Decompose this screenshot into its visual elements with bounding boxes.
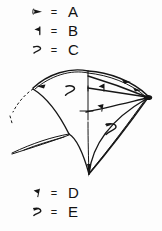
- equals-sign: =: [46, 187, 62, 199]
- legend-letter: B: [62, 22, 90, 39]
- open-hook-right-glyph-icon: [30, 44, 46, 56]
- symbol-legend-bottom: = D = E: [0, 183, 162, 221]
- symbol-legend-top: = A = B = C: [0, 2, 162, 59]
- tick-left-dashed: [10, 116, 12, 123]
- fan-surface-diagram: [0, 64, 162, 180]
- edge-inner-bottom-left: [69, 134, 89, 174]
- equals-sign: =: [46, 44, 62, 56]
- equals-sign: =: [46, 206, 62, 218]
- edge-b-chord: [88, 76, 147, 97]
- legend-row: = C: [0, 40, 162, 59]
- flag-marker-d: [97, 104, 103, 112]
- flag-on-stem-glyph-icon: [30, 187, 46, 199]
- legend-row: = D: [0, 183, 162, 202]
- legend-letter: A: [62, 3, 90, 20]
- legend-letter: E: [62, 203, 90, 220]
- solid-flag-left-glyph-icon: [30, 25, 46, 37]
- vertex-right-blob: [144, 95, 152, 100]
- spike-lower-left-upper: [12, 134, 69, 153]
- small-solid-arrowhead-right-icon: [30, 6, 46, 18]
- label-c-upper-left: [66, 86, 75, 95]
- legend-letter: C: [62, 41, 90, 58]
- edge-bottom-to-right-inner: [90, 100, 145, 172]
- legend-letter: D: [62, 184, 90, 201]
- equals-sign: =: [46, 25, 62, 37]
- page-canvas: = A = B = C: [0, 0, 162, 231]
- edge-left-dashed: [13, 89, 33, 112]
- legend-row: = E: [0, 202, 162, 221]
- legend-row: = A: [0, 2, 162, 21]
- edge-d-horizontal: [88, 88, 147, 97]
- filled-hook-right-glyph-icon: [30, 206, 46, 218]
- legend-row: = B: [0, 21, 162, 40]
- label-e-lower-right: [106, 123, 116, 134]
- equals-sign: =: [46, 6, 62, 18]
- edge-left-lobe-lower: [33, 89, 69, 134]
